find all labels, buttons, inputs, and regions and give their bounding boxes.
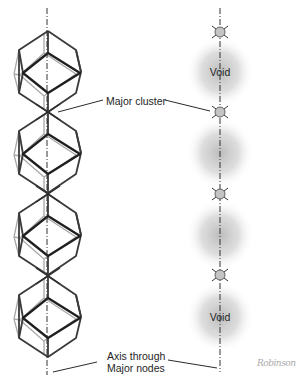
void-label-top: Void bbox=[210, 66, 230, 78]
axis-label-line2: Major nodes bbox=[107, 362, 165, 374]
diagram-canvas bbox=[0, 0, 297, 381]
major-node-icon bbox=[212, 26, 228, 38]
publisher-logo: Robinson bbox=[257, 358, 295, 368]
polyhedron-chain bbox=[14, 8, 81, 375]
major-node-icon bbox=[212, 106, 228, 118]
void-label-bottom: Void bbox=[210, 311, 230, 323]
major-node-icon bbox=[212, 269, 228, 281]
major-node-icon bbox=[212, 188, 228, 200]
major-cluster-label: Major cluster bbox=[106, 95, 166, 107]
axis-label-line1: Axis through bbox=[107, 350, 165, 362]
